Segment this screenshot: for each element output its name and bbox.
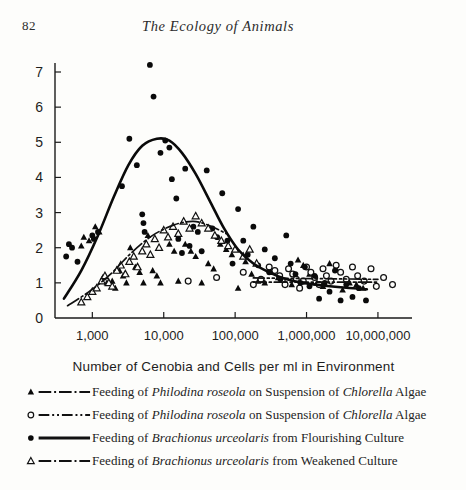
data-point-filled-circle — [272, 255, 278, 261]
x-axis-title: Number of Cenobia and Cells per ml in En… — [73, 359, 395, 374]
data-point-filled-circle — [204, 168, 210, 174]
y-tick-label: 1 — [35, 275, 43, 291]
data-point-filled-circle — [158, 150, 164, 156]
data-point-open-circle — [185, 278, 191, 284]
data-point-filled-triangle — [198, 279, 205, 285]
data-point-filled-triangle — [295, 257, 302, 263]
data-point-filled-circle — [134, 162, 140, 168]
data-point-filled-circle — [283, 233, 289, 239]
legend-marker-open-circle — [28, 412, 34, 418]
data-point-open-triangle — [147, 251, 154, 257]
x-tick-label: 1,000,000 — [278, 328, 336, 343]
legend-marker-open-triangle — [27, 457, 34, 463]
data-point-filled-circle — [302, 264, 308, 270]
data-point-filled-circle — [363, 298, 369, 304]
data-point-filled-circle — [187, 243, 193, 249]
data-point-filled-triangle — [205, 260, 212, 266]
data-point-open-triangle — [130, 253, 137, 259]
data-point-filled-circle — [179, 250, 185, 256]
data-point-filled-circle — [28, 435, 34, 441]
data-point-filled-circle — [338, 298, 344, 304]
legend-key-glyph — [26, 385, 92, 399]
data-point-open-triangle — [225, 242, 232, 248]
data-point-open-circle — [324, 273, 330, 279]
data-point-filled-triangle — [123, 279, 130, 285]
y-tick-label: 0 — [35, 310, 43, 326]
data-point-filled-circle — [75, 259, 81, 265]
data-point-filled-circle — [219, 190, 225, 196]
legend-key-open-circle — [0, 408, 92, 422]
data-point-open-triangle — [165, 233, 172, 239]
data-point-filled-circle — [142, 229, 148, 235]
data-point-open-circle — [368, 266, 374, 272]
data-point-filled-triangle — [92, 223, 99, 229]
figure-legend: Feeding of Philodina roseola on Suspensi… — [0, 380, 466, 472]
data-point-filled-circle — [182, 166, 188, 172]
data-point-filled-circle — [195, 229, 201, 235]
data-point-filled-triangle — [210, 265, 217, 271]
data-point-open-circle — [266, 264, 272, 270]
data-point-open-triangle — [139, 248, 146, 254]
data-point-filled-triangle — [157, 279, 164, 285]
legend-label: Feeding of Philodina roseola on Suspensi… — [92, 407, 426, 423]
data-point-filled-circle — [262, 247, 268, 253]
data-point-filled-triangle — [78, 242, 85, 248]
data-point-filled-circle — [151, 94, 157, 100]
data-point-filled-triangle — [326, 260, 333, 266]
legend-row: Feeding of Philodina roseola on Suspensi… — [0, 380, 466, 403]
data-point-open-triangle — [192, 212, 199, 218]
legend-key-filled-triangle — [0, 385, 92, 399]
data-point-open-circle — [350, 264, 356, 270]
data-point-open-circle — [333, 262, 339, 268]
data-point-filled-circle — [288, 261, 294, 267]
legend-key-glyph — [26, 431, 92, 445]
data-point-filled-circle — [69, 245, 75, 251]
data-point-open-circle — [286, 266, 292, 272]
data-point-filled-triangle — [28, 388, 34, 394]
data-point-filled-triangle — [175, 278, 182, 284]
data-point-filled-circle — [332, 268, 338, 274]
data-point-filled-triangle — [192, 253, 199, 259]
data-point-open-triangle — [246, 246, 253, 252]
legend-row: Feeding of Brachionus urceolaris from We… — [0, 449, 466, 472]
data-point-filled-circle — [169, 176, 175, 182]
legend-key-open-triangle — [0, 454, 92, 468]
data-point-filled-triangle — [81, 234, 88, 240]
data-point-filled-triangle — [248, 271, 255, 277]
data-point-open-circle — [28, 412, 34, 418]
legend-row: Feeding of Philodina roseola on Suspensi… — [0, 403, 466, 426]
legend-label: Feeding of Philodina roseola on Suspensi… — [92, 384, 426, 400]
data-point-open-circle — [390, 282, 396, 288]
y-tick-label: 4 — [35, 169, 43, 185]
x-tick-label: 10,000 — [144, 328, 184, 343]
x-tick-label: 1,000 — [76, 328, 109, 343]
data-point-open-circle — [338, 269, 344, 275]
x-axis-ticks: 1,00010,000100,0001,000,00010,000,000 — [76, 312, 410, 343]
legend-label: Feeding of Brachionus urceolaris from Fl… — [92, 430, 404, 446]
data-point-filled-circle — [316, 296, 322, 302]
data-point-filled-triangle — [149, 267, 156, 273]
data-point-open-circle — [297, 285, 303, 291]
data-point-filled-circle — [240, 238, 246, 244]
y-tick-label: 6 — [35, 99, 43, 115]
y-tick-label: 7 — [35, 64, 43, 80]
data-point-open-circle — [214, 275, 220, 281]
data-point-filled-circle — [199, 248, 205, 254]
data-point-filled-triangle — [235, 285, 242, 291]
data-point-filled-triangle — [154, 272, 161, 278]
data-point-filled-circle — [293, 271, 299, 277]
data-point-filled-circle — [166, 145, 172, 151]
data-point-filled-circle — [126, 136, 132, 142]
page-canvas: 82 The Ecology of Animals 012345671,0001… — [0, 0, 466, 490]
y-tick-label: 2 — [35, 240, 43, 256]
data-point-filled-circle — [173, 196, 179, 202]
data-point-filled-circle — [141, 220, 147, 226]
legend-label: Feeding of Brachionus urceolaris from We… — [92, 453, 398, 469]
chart-canvas: 012345671,00010,000100,0001,000,00010,00… — [0, 45, 466, 375]
data-point-filled-triangle — [166, 241, 173, 247]
legend-key-glyph — [26, 454, 92, 468]
x-tick-label: 10,000,000 — [345, 328, 410, 343]
legend-key-glyph — [26, 408, 92, 422]
figure-scatter-plot: 012345671,00010,000100,0001,000,00010,00… — [0, 45, 466, 375]
data-point-open-circle — [240, 269, 246, 275]
